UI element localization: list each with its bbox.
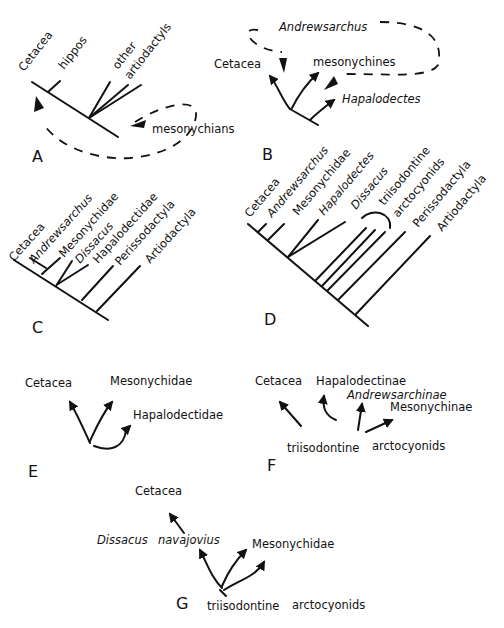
arrowhead-icon xyxy=(34,96,44,112)
tree-branch xyxy=(356,236,430,314)
arrow-to-cetacea xyxy=(70,402,90,443)
tree-branch xyxy=(258,224,266,232)
panel-letter: C xyxy=(32,318,43,337)
arrow-to-cetacea xyxy=(270,76,290,109)
tree-branch xyxy=(89,85,128,118)
taxon-label: hippos xyxy=(55,33,90,72)
arrow-to-hapalodectidae xyxy=(94,426,130,449)
arrow-to-hapalodectinae xyxy=(324,396,337,420)
taxon-label: mesonychines xyxy=(313,55,396,69)
arrow-to-mesonychidae xyxy=(90,402,112,441)
taxon-label: Cetacea xyxy=(15,28,55,74)
panel-letter: E xyxy=(28,462,38,481)
taxon-label: Mesonychinae xyxy=(390,400,472,414)
panel-letter: G xyxy=(176,594,188,613)
arrowhead-icon xyxy=(279,58,287,73)
taxon-label: Cetacea xyxy=(25,376,72,390)
tree-branch xyxy=(42,258,60,274)
arrowhead-icon xyxy=(130,120,146,128)
arrow-to-hapalodectes xyxy=(310,100,334,120)
panel-letter: A xyxy=(32,147,43,166)
tree-branch xyxy=(268,224,284,240)
arrow-to-cetacea xyxy=(280,402,301,426)
taxon-label: Mesonychidae xyxy=(110,374,192,388)
arrowhead-icon xyxy=(324,76,338,90)
taxon-label: Cetacea xyxy=(214,57,261,71)
panel-b: Andrewsarchus Cetacea mesonychines Hapal… xyxy=(214,20,439,164)
panel-g: Cetacea Dissacus navajovius Mesonychidae… xyxy=(97,484,365,613)
arrow-to-navajovius xyxy=(200,550,222,588)
bracket-arc xyxy=(362,213,390,228)
panel-d: Cetacea Andrewsarchus Mesonychidae Hapal… xyxy=(242,143,489,329)
mesonychians-label: mesonychians xyxy=(152,122,235,136)
tree-branch xyxy=(338,232,405,300)
panel-letter: D xyxy=(264,310,276,329)
tree-branch xyxy=(89,82,110,118)
taxon-label: Andrewsarchus xyxy=(278,20,367,34)
tree-backbone xyxy=(14,260,108,320)
arrow-branch xyxy=(224,562,264,590)
panel-letter: F xyxy=(267,456,276,475)
phylogeny-figure: Cetacea hippos other artiodactyls mesony… xyxy=(0,0,504,628)
arrow-to-andrewsarchinae xyxy=(358,404,362,430)
panel-f: Cetacea Hapalodectinae Andrewsarchinae M… xyxy=(255,374,472,475)
tree-branch xyxy=(220,590,226,596)
taxon-label: Hapalodectinae xyxy=(316,374,406,388)
tree-branch xyxy=(97,266,140,311)
taxon-label: Cetacea xyxy=(255,374,302,388)
taxon-label: arctocyonids xyxy=(372,439,445,453)
taxon-label: Mesonychidae xyxy=(252,537,334,551)
taxon-label: Cetacea xyxy=(135,484,182,498)
taxon-label: triisodontine xyxy=(287,441,359,455)
panel-a: Cetacea hippos other artiodactyls mesony… xyxy=(15,20,234,166)
taxon-label: Hapalodectidae xyxy=(133,408,223,422)
arrow-to-mesonychinae xyxy=(366,420,392,432)
panel-letter: B xyxy=(262,145,273,164)
arrow-to-cetacea xyxy=(170,514,184,533)
tree-branch xyxy=(82,266,113,300)
arrow-to-mesonychines xyxy=(292,73,318,108)
tree-branch xyxy=(56,261,72,286)
tree-branch xyxy=(89,85,141,118)
taxon-label: Dissacus xyxy=(97,533,148,547)
tree-branch xyxy=(288,222,345,257)
taxon-label: triisodontine xyxy=(207,599,279,613)
tree-branch xyxy=(322,230,375,286)
taxon-label: navajovius xyxy=(158,533,220,547)
tree-branch xyxy=(288,220,318,257)
panel-e: Cetacea Mesonychidae Hapalodectidae E xyxy=(25,374,223,481)
tree-branch xyxy=(48,81,60,92)
taxon-label: arctocyonids xyxy=(292,598,365,612)
taxon-label: Hapalodectes xyxy=(342,92,421,106)
panel-c: Cetacea Andrewsarchus Mesonychidae Dissa… xyxy=(6,189,199,337)
